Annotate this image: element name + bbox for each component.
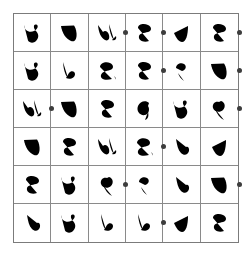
glyph-grid (13, 13, 239, 243)
glyph-sad-curl-icon (201, 14, 238, 51)
glyph-fe-ring-icon (201, 90, 238, 127)
grid-cell-r5-c2[interactable] (51, 166, 88, 204)
dot-r5-c6-right[interactable] (237, 182, 242, 187)
grid-cell-r2-c2[interactable] (51, 52, 88, 90)
glyph-lam-tail-icon (126, 204, 162, 242)
glyph-lam-tail-icon (89, 204, 125, 242)
dot-r4-c4-right[interactable] (161, 144, 166, 149)
grid-cell-r4-c2[interactable] (51, 128, 88, 166)
grid-cell-r6-c1[interactable] (14, 204, 51, 242)
grid-cell-r3-c3[interactable] (89, 90, 126, 128)
grid-cell-r4-c4[interactable] (126, 128, 163, 166)
grid-cell-r4-c3[interactable] (89, 128, 126, 166)
glyph-sad-curl-icon (201, 204, 238, 242)
glyph-lam-tail-icon (51, 52, 87, 89)
glyph-lam-alef-icon (89, 14, 125, 51)
grid-cell-r6-c2[interactable] (51, 204, 88, 242)
glyph-reh-swoop-icon (163, 166, 199, 203)
grid-cell-r3-c6[interactable] (201, 90, 238, 128)
grid-cell-r6-c6[interactable] (201, 204, 238, 242)
glyph-hamza-tick-icon (163, 52, 199, 89)
dot-r5-c3-right[interactable] (123, 182, 128, 187)
glyph-lam-alef-icon (89, 128, 125, 165)
glyph-reh-swoop-icon (14, 204, 50, 242)
glyph-nun-hook-icon (51, 14, 87, 51)
glyph-lam-alef-icon (14, 90, 50, 127)
glyph-dal-round-icon (126, 90, 162, 127)
grid-cell-r5-c4[interactable] (126, 166, 163, 204)
glyph-ain-curl-icon (89, 52, 125, 89)
grid-cell-r6-c5[interactable] (163, 204, 200, 242)
glyph-nun-hook-icon (51, 90, 87, 127)
dot-r3-c6-right[interactable] (237, 106, 242, 111)
grid-cell-r1-c2[interactable] (51, 14, 88, 52)
grid-cell-r2-c6[interactable] (201, 52, 238, 90)
glyph-ain-curl-icon (126, 128, 162, 165)
grid-cell-r5-c6[interactable] (201, 166, 238, 204)
glyph-fe-ring-icon (89, 166, 125, 203)
glyph-nun-hook-icon (201, 52, 238, 89)
dot-r2-c4-right[interactable] (161, 68, 166, 73)
grid-cell-r3-c4[interactable] (126, 90, 163, 128)
puzzle-grid-image (0, 0, 251, 256)
glyph-reh-swoop-icon (163, 128, 199, 165)
grid-cell-r3-c5[interactable] (163, 90, 200, 128)
grid-cell-r1-c6[interactable] (201, 14, 238, 52)
dot-r2-c6-right[interactable] (237, 68, 242, 73)
dot-r6-c4-right[interactable] (161, 220, 166, 225)
glyph-nun-hook-icon (201, 166, 238, 203)
dot-r1-c3-right[interactable] (123, 30, 128, 35)
glyph-nun-hook-icon (14, 128, 50, 165)
glyph-vee-stroke-icon (163, 204, 199, 242)
glyph-ye-loop-icon (51, 166, 87, 203)
dot-r1-c4-right[interactable] (161, 30, 166, 35)
grid-cell-r1-c3[interactable] (89, 14, 126, 52)
grid-cell-r3-c2[interactable] (51, 90, 88, 128)
grid-cell-r5-c5[interactable] (163, 166, 200, 204)
grid-cell-r2-c5[interactable] (163, 52, 200, 90)
grid-cell-r1-c1[interactable] (14, 14, 51, 52)
glyph-sad-curl-icon (51, 128, 87, 165)
grid-cell-r4-c1[interactable] (14, 128, 51, 166)
grid-cell-r2-c1[interactable] (14, 52, 51, 90)
glyph-ye-loop-icon (14, 14, 50, 51)
grid-cell-r3-c1[interactable] (14, 90, 51, 128)
dot-r3-c1-right[interactable] (49, 106, 54, 111)
glyph-sad-curl-icon (126, 52, 162, 89)
grid-cell-r1-c4[interactable] (126, 14, 163, 52)
grid-cell-r5-c1[interactable] (14, 166, 51, 204)
glyph-ye-loop-icon (14, 52, 50, 89)
grid-cell-r6-c3[interactable] (89, 204, 126, 242)
glyph-sad-curl-icon (14, 166, 50, 203)
glyph-ye-loop-icon (51, 204, 87, 242)
glyph-vee-stroke-icon (201, 128, 238, 165)
grid-cell-r2-c3[interactable] (89, 52, 126, 90)
grid-cell-r5-c3[interactable] (89, 166, 126, 204)
grid-cell-r4-c6[interactable] (201, 128, 238, 166)
grid-cell-r1-c5[interactable] (163, 14, 200, 52)
grid-cell-r2-c4[interactable] (126, 52, 163, 90)
dot-r1-c6-right[interactable] (237, 30, 242, 35)
glyph-vee-stroke-icon (163, 14, 199, 51)
grid-cell-r4-c5[interactable] (163, 128, 200, 166)
grid-cell-r6-c4[interactable] (126, 204, 163, 242)
glyph-sad-curl-icon (89, 90, 125, 127)
glyph-hamza-tick-icon (126, 166, 162, 203)
glyph-sad-curl-icon (126, 14, 162, 51)
glyph-ye-loop-icon (163, 90, 199, 127)
